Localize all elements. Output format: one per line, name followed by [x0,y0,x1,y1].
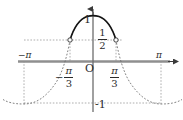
x-axis-label-pi-third: π 3 [110,66,119,89]
open-point-neg-pi-third [68,38,72,42]
pi-third-denominator: 3 [110,79,118,89]
y-axis-label-minus-one: -1 [95,99,106,110]
neg-pi-third-numerator: π [65,66,74,76]
y-axis-label-one: 1 [84,14,91,25]
neg-pi-third-stack: π 3 [64,66,73,89]
origin-label: O [85,63,94,74]
pi-third-numerator: π [110,66,119,76]
neg-pi-third-denominator: 3 [65,79,73,89]
plot-canvas [0,0,183,120]
open-point-pi-third [114,38,118,42]
x-axis-label-neg-pi-third: − π 3 [55,66,73,89]
x-axis-label-neg-pi: −π [18,51,31,60]
neg-pi-third-sign: − [55,73,63,83]
cosine-graph-figure: 1 1 2 -1 O −π π − π 3 π 3 [0,0,183,120]
y-axis-label-one-half: 1 2 [98,28,107,51]
x-axis-label-pi: π [156,51,162,60]
one-half-denominator: 2 [98,41,106,51]
one-half-numerator: 1 [98,28,106,38]
